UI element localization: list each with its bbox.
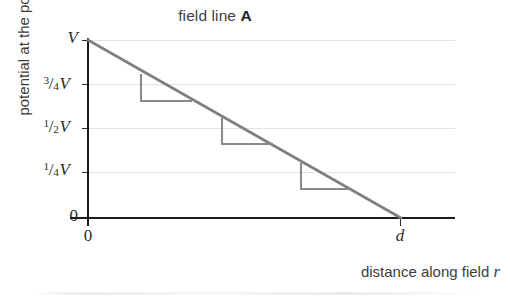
field-line-potential-chart: field line A potential at the point V 3/… xyxy=(0,0,510,299)
gradient-triangle-1 xyxy=(141,74,192,101)
potential-line xyxy=(88,40,401,218)
x-axis-title-prefix: distance along field xyxy=(361,263,494,280)
plot-data-layer xyxy=(0,0,510,299)
x-axis-title: distance along field r xyxy=(200,262,500,282)
x-axis-title-symbol: r xyxy=(493,262,500,281)
page-scan-artifact xyxy=(30,292,480,295)
